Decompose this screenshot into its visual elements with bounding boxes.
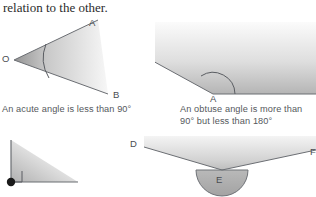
acute-ray-label-a: A [89,17,95,28]
obtuse-vertex-label-a: A [210,93,216,104]
reflex-ray-label-f: F [310,146,316,157]
obtuse-angle-figure [155,22,316,100]
right-angle-fill [11,140,78,182]
obtuse-angle-fill [155,22,316,94]
reflex-angle-fill [144,136,316,170]
reflex-vertex-label-e: E [216,174,222,185]
intro-paragraph: relation to the other. [3,0,108,15]
right-angle-vertex-dot [7,178,15,186]
textbook-page: relation to the other. O A B An acute an… [0,0,316,197]
obtuse-caption-line-2: 90° but less than 180° [180,116,316,128]
reflex-ray-label-d: D [130,138,137,149]
acute-vertex-label-o: O [2,53,9,64]
acute-angle-figure [0,14,150,104]
obtuse-angle-caption: An obtuse angle is more than 90° but les… [180,104,316,127]
acute-angle-caption: An acute angle is less than 90° [2,104,131,116]
right-angle-figure [2,138,92,197]
reflex-angle-figure [128,136,316,197]
acute-angle-fill [14,20,108,94]
obtuse-caption-line-1: An obtuse angle is more than [180,104,316,116]
acute-ray-label-b: B [113,89,119,100]
